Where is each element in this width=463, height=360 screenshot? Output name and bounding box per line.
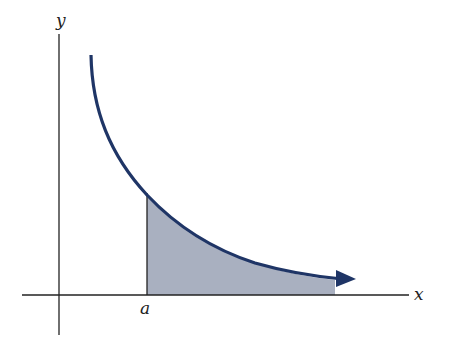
shaded-area [147,197,335,295]
y-axis-label: y [55,10,66,30]
curve [91,55,342,279]
curve-arrowhead-icon [336,270,356,287]
lower-bound-label: a [140,298,150,318]
x-axis-label: x [414,284,424,304]
diagram-canvas: y x a [0,0,463,360]
